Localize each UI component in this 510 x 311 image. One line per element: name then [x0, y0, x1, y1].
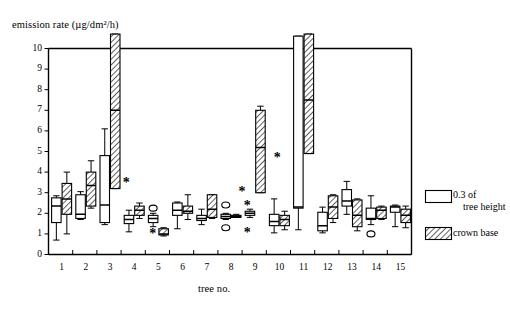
box-hatched-6 [183, 206, 193, 213]
legend-label-0-3-tree-height: 0.3 oftree height [453, 189, 505, 213]
x-tick-label-15: 15 [392, 262, 408, 272]
significance-asterisk: * [149, 226, 156, 241]
box-open-3 [100, 156, 110, 223]
legend-label-line2: tree height [453, 201, 505, 213]
x-tick-label-1: 1 [54, 262, 70, 272]
y-axis-title: emission rate (µg/dm²/h) [12, 19, 119, 30]
x-tick-label-11: 11 [296, 262, 312, 272]
significance-asterisk: * [274, 150, 281, 165]
box-open-12 [318, 212, 328, 231]
box-hatched-9 [256, 110, 266, 192]
legend [426, 191, 452, 240]
box-open-5-outlier [149, 205, 157, 211]
significance-asterisk: * [123, 175, 130, 190]
y-tick-label: 3 [26, 187, 42, 197]
box-hatched-2 [86, 172, 96, 206]
x-axis-title: tree no. [198, 283, 230, 294]
y-tick-label: 10 [26, 43, 42, 53]
legend-swatch-hatched [426, 228, 452, 240]
x-tick-label-10: 10 [271, 262, 287, 272]
box-open-6 [173, 203, 183, 215]
x-tick-label-3: 3 [102, 262, 118, 272]
x-tick-label-7: 7 [199, 262, 215, 272]
box-open-1 [52, 198, 62, 223]
box-hatched-13 [353, 200, 363, 227]
box-open-11 [294, 36, 304, 208]
x-tick-label-14: 14 [368, 262, 384, 272]
x-tick-label-4: 4 [126, 262, 142, 272]
x-tick-label-9: 9 [247, 262, 263, 272]
x-tick-label-5: 5 [150, 262, 166, 272]
y-tick-label: 2 [26, 207, 42, 217]
box-hatched-10 [280, 215, 290, 225]
x-tick-label-6: 6 [175, 262, 191, 272]
y-tick-label: 1 [26, 228, 42, 238]
box-open-8-outlier [222, 225, 230, 231]
boxes-layer [52, 34, 411, 240]
x-tick-label-12: 12 [320, 262, 336, 272]
legend-label-line1: 0.3 of [453, 189, 505, 201]
x-tick-label-8: 8 [223, 262, 239, 272]
x-tick-label-2: 2 [78, 262, 94, 272]
box-hatched-7 [207, 195, 217, 218]
box-open-13 [342, 190, 352, 206]
y-tick-label: 8 [26, 84, 42, 94]
box-open-10 [269, 214, 279, 225]
y-tick-label: 7 [26, 104, 42, 114]
box-open-8-outlier [222, 202, 230, 208]
box-open-14-outlier [367, 231, 375, 237]
y-tick-label: 5 [26, 146, 42, 156]
x-tick-label-13: 13 [344, 262, 360, 272]
y-tick-label: 0 [26, 249, 42, 259]
box-hatched-3 [111, 34, 121, 189]
significance-asterisk: * [238, 184, 245, 199]
legend-label-crown-base: crown base [453, 227, 498, 239]
y-tick-label: 6 [26, 125, 42, 135]
significance-asterisk: * [244, 225, 251, 240]
box-hatched-11 [304, 34, 314, 153]
significance-asterisk: * [244, 198, 251, 213]
legend-swatch-open [426, 191, 452, 203]
y-tick-label: 9 [26, 63, 42, 73]
box-hatched-14 [377, 207, 387, 218]
y-tick-label: 4 [26, 166, 42, 176]
